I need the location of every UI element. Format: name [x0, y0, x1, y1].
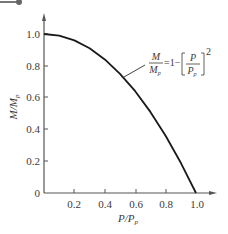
x-tick-label: 0.4 — [98, 198, 112, 210]
y-tick-label: 0 — [35, 187, 41, 199]
svg-text:Mp: Mp — [148, 64, 160, 76]
x-tick-label: 0.8 — [159, 198, 173, 210]
equation-annotation: M Mp =1− P Pp 2 — [148, 46, 211, 77]
y-tick-label: 0.2 — [26, 155, 40, 167]
svg-text:2: 2 — [206, 46, 211, 57]
y-tick-label: 0.8 — [26, 60, 40, 72]
interaction-curve-chart: 1.0 0.8 0.6 0.4 0.2 0 M/Mp 0.2 0.4 0.6 0… — [0, 0, 228, 234]
x-axis: 0.2 0.4 0.6 0.8 1.0 P/Pp — [44, 189, 217, 226]
svg-text:P: P — [189, 52, 196, 63]
x-axis-label: P/Pp — [117, 212, 139, 226]
y-tick-label: 1.0 — [26, 28, 40, 40]
annotation-leader-line — [124, 65, 145, 77]
svg-text:=1−: =1− — [164, 57, 181, 68]
x-tick-label: 1.0 — [190, 198, 204, 210]
y-axis: 1.0 0.8 0.6 0.4 0.2 0 M/Mp — [7, 13, 48, 199]
y-tick-label: 0.4 — [26, 123, 40, 135]
x-axis-arrow-icon — [209, 191, 217, 195]
svg-text:M: M — [151, 51, 161, 62]
corner-decoration — [0, 0, 22, 5]
y-axis-arrow-icon — [42, 13, 46, 21]
x-tick-label: 0.2 — [67, 198, 81, 210]
svg-text:Pp: Pp — [186, 65, 196, 77]
y-axis-label: M/Mp — [7, 94, 21, 120]
x-tick-label: 0.6 — [129, 198, 143, 210]
y-tick-label: 0.6 — [26, 91, 40, 103]
